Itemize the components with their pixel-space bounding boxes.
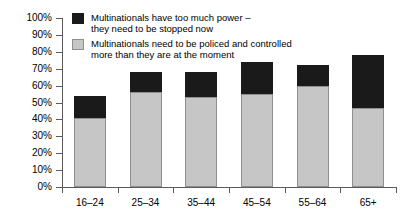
y-axis-tick: [56, 86, 62, 87]
y-axis-tick-label: 30%: [0, 131, 52, 141]
y-axis-tick-label-text: 90%: [8, 30, 52, 40]
legend-swatch-light-icon: [72, 39, 84, 50]
bar-segment-too-much-power: [185, 72, 217, 97]
y-axis-tick-label-text: 60%: [8, 81, 52, 91]
y-axis-tick-label-text: 50%: [8, 98, 52, 108]
y-axis-tick-label-text: 70%: [8, 64, 52, 74]
bar-segment-policed-controlled: [74, 118, 106, 187]
y-axis-tick-label-text: 20%: [8, 148, 52, 158]
y-axis-tick-label: 90%: [0, 30, 52, 40]
x-axis-tick: [285, 187, 286, 193]
y-axis-tick-label-text: 40%: [8, 114, 52, 124]
y-axis-tick: [56, 136, 62, 137]
y-axis-tick-label-text: 0%: [8, 182, 52, 192]
bar-segment-policed-controlled: [130, 92, 162, 187]
y-axis-line: [62, 18, 63, 187]
y-axis-tick-label-text: 100%: [8, 13, 52, 23]
x-axis-tick-label: 35–44: [173, 197, 229, 208]
legend-item-too-much-power: Multinationals have too much power – the…: [72, 12, 292, 34]
y-axis-tick-label: 70%: [0, 64, 52, 74]
bar-segment-too-much-power: [74, 96, 106, 118]
y-axis-tick-label-text: 80%: [8, 47, 52, 57]
x-axis-tick: [229, 187, 230, 193]
y-axis-tick-label: 50%: [0, 98, 52, 108]
x-axis-tick-label: 25–34: [118, 197, 174, 208]
x-axis-tick: [173, 187, 174, 193]
y-axis-tick: [56, 119, 62, 120]
bar-group: [297, 18, 329, 187]
bar-segment-too-much-power: [297, 65, 329, 85]
bar-segment-policed-controlled: [297, 86, 329, 187]
legend-label-line1: Multinationals need to be policed and co…: [91, 38, 292, 49]
y-axis-tick-label: 0%: [0, 182, 52, 192]
legend-label-line1: Multinationals have too much power –: [91, 12, 292, 23]
stacked-bar-chart: 0%10%20%30%40%50%60%70%80%90%100% 16–242…: [0, 0, 406, 224]
bar-segment-too-much-power: [241, 62, 273, 94]
bar-segment-policed-controlled: [241, 94, 273, 187]
y-axis-tick-label: 60%: [0, 81, 52, 91]
legend-label-line2: more than they are at the moment: [91, 49, 292, 60]
y-axis-tick-label: 100%: [0, 13, 52, 23]
y-axis-tick: [56, 153, 62, 154]
x-axis-tick: [118, 187, 119, 193]
x-axis-tick-label: 45–54: [229, 197, 285, 208]
bar-segment-too-much-power: [352, 55, 384, 107]
y-axis-tick-label: 40%: [0, 114, 52, 124]
y-axis-tick: [56, 103, 62, 104]
y-axis-tick: [56, 18, 62, 19]
y-axis-tick: [56, 170, 62, 171]
y-axis-tick: [56, 69, 62, 70]
y-axis-tick: [56, 52, 62, 53]
bar-segment-policed-controlled: [185, 97, 217, 187]
bar-group: [352, 18, 384, 187]
x-axis-tick: [340, 187, 341, 193]
legend-item-policed-controlled: Multinationals need to be policed and co…: [72, 38, 292, 60]
x-axis-tick-label: 65+: [340, 197, 396, 208]
x-axis-tick-label: 55–64: [285, 197, 341, 208]
y-axis-tick-label: 20%: [0, 148, 52, 158]
y-axis-tick-label-text: 10%: [8, 165, 52, 175]
bar-segment-policed-controlled: [352, 108, 384, 187]
x-axis-tick: [62, 187, 63, 193]
legend-swatch-dark-icon: [72, 13, 84, 24]
y-axis-tick-label-text: 30%: [8, 131, 52, 141]
x-axis-tick-label: 16–24: [62, 197, 118, 208]
x-axis-tick: [396, 187, 397, 193]
bar-segment-too-much-power: [130, 72, 162, 92]
legend-label-line2: they need to be stopped now: [91, 23, 292, 34]
y-axis-tick-label: 10%: [0, 165, 52, 175]
y-axis-tick: [56, 35, 62, 36]
chart-legend: Multinationals have too much power – the…: [72, 12, 292, 64]
y-axis-tick-label: 80%: [0, 47, 52, 57]
